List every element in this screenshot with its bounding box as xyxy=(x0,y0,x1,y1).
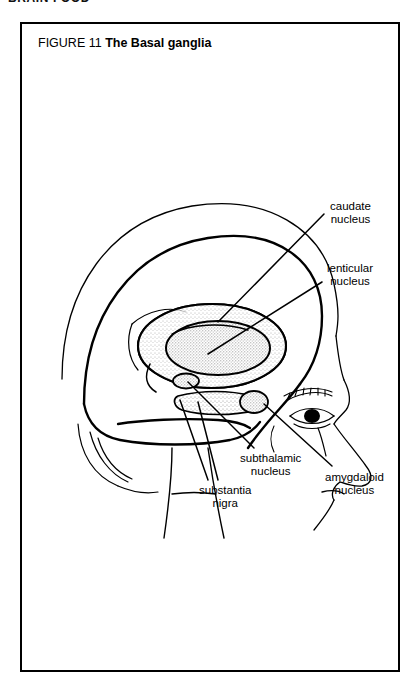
label-caudate-nucleus: caudate nucleus xyxy=(330,200,371,227)
label-lenticular-line2: nucleus xyxy=(327,275,373,288)
basal-ganglia-illustration xyxy=(22,24,402,674)
subthalamic-nucleus xyxy=(173,374,199,389)
label-amygdaloid-line2: nucleus xyxy=(325,484,384,497)
label-subthalamic-line2: nucleus xyxy=(240,465,301,478)
label-substantia-line2: nigra xyxy=(199,497,251,510)
label-lenticular-nucleus: lenticular nucleus xyxy=(327,262,373,289)
label-caudate-line2: nucleus xyxy=(330,213,371,226)
label-amygdaloid-nucleus: amygdaloid nucleus xyxy=(325,471,384,498)
label-caudate-line1: caudate xyxy=(330,200,371,213)
label-substantia-line1: substantia xyxy=(199,484,251,497)
ear-region xyxy=(271,426,274,452)
running-header: BRAIN FOOD xyxy=(8,0,90,4)
label-amygdaloid-line1: amygdaloid xyxy=(325,471,384,484)
label-substantia-nigra: substantia nigra xyxy=(199,484,251,511)
figure-box: FIGURE 11 The Basal ganglia xyxy=(20,22,400,672)
label-subthalamic-line1: subthalamic xyxy=(240,452,301,465)
cerebellum xyxy=(78,424,158,493)
face-profile xyxy=(314,380,371,530)
eye xyxy=(290,409,334,457)
label-subthalamic-nucleus: subthalamic nucleus xyxy=(240,452,301,479)
label-lenticular-line1: lenticular xyxy=(327,262,373,275)
amygdaloid-nucleus xyxy=(240,391,268,413)
